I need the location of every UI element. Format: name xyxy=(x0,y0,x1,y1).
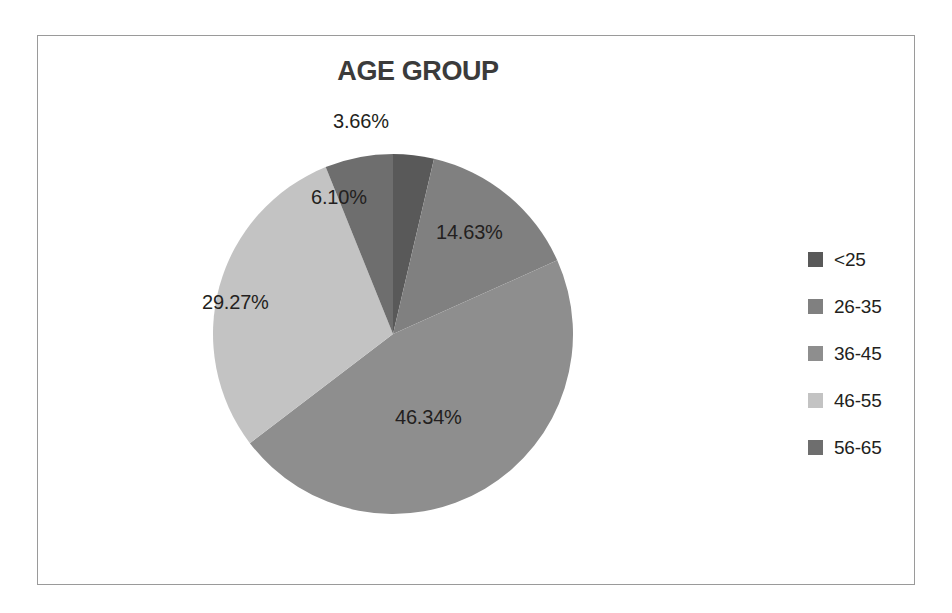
pie-slice-group xyxy=(213,154,573,514)
legend-swatch-icon-under-25 xyxy=(808,252,823,267)
legend-item-under-25[interactable]: <25 xyxy=(808,236,918,283)
pie-chart xyxy=(213,154,573,514)
legend-swatch-icon-56-65 xyxy=(808,440,823,455)
data-label-46-55: 29.27% xyxy=(202,291,269,314)
legend-label-under-25: <25 xyxy=(834,249,866,271)
legend-label-36-45: 36-45 xyxy=(834,343,882,365)
pie-plot-area: 3.66% 14.63% 46.34% 29.27% 6.10% xyxy=(183,124,603,544)
data-label-36-45: 46.34% xyxy=(395,406,462,429)
legend-swatch-icon-26-35 xyxy=(808,299,823,314)
chart-title: AGE GROUP xyxy=(38,56,798,87)
legend-swatch-icon-46-55 xyxy=(808,393,823,408)
screenshot-root: AGE GROUP 3.66% 14.63% 46.34% 29.27% 6.1… xyxy=(0,0,952,613)
data-label-26-35: 14.63% xyxy=(436,221,503,244)
data-label-56-65: 6.10% xyxy=(311,186,367,209)
legend-label-26-35: 26-35 xyxy=(834,296,882,318)
legend-item-36-45[interactable]: 36-45 xyxy=(808,330,918,377)
legend-item-46-55[interactable]: 46-55 xyxy=(808,377,918,424)
legend-item-26-35[interactable]: 26-35 xyxy=(808,283,918,330)
chart-legend: <25 26-35 36-45 46-55 56-65 xyxy=(808,236,918,471)
legend-label-56-65: 56-65 xyxy=(834,437,882,459)
data-label-under-25: 3.66% xyxy=(333,110,389,133)
legend-swatch-icon-36-45 xyxy=(808,346,823,361)
legend-item-56-65[interactable]: 56-65 xyxy=(808,424,918,471)
legend-label-46-55: 46-55 xyxy=(834,390,882,412)
chart-frame: AGE GROUP 3.66% 14.63% 46.34% 29.27% 6.1… xyxy=(37,35,915,585)
